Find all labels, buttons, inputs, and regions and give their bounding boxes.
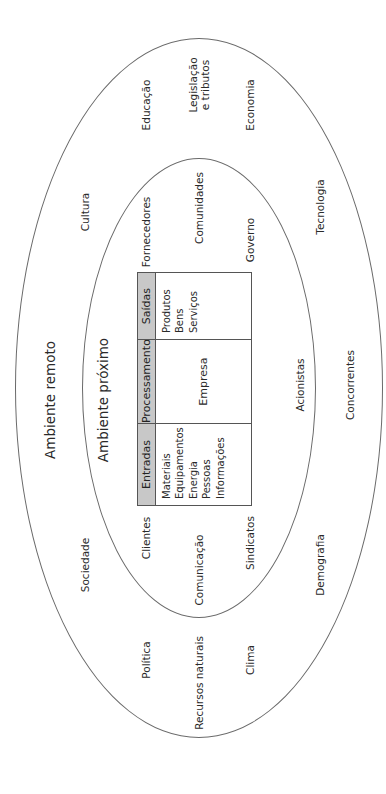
- factor-economia: Economia: [244, 79, 256, 131]
- factor-legislacao-line1: Legislação: [187, 57, 199, 112]
- factor-acionistas: Acionistas: [294, 358, 306, 411]
- column-header-entradas: Entradas: [138, 424, 156, 505]
- factor-recursos-naturais: Recursos naturais: [193, 636, 205, 730]
- factor-legislacao-tributos: Legislação e tributos: [187, 57, 211, 112]
- column-saidas: Saídas Produtos Bens Serviços: [138, 273, 251, 340]
- factor-educacao: Educação: [140, 80, 152, 131]
- list-item: Bens: [173, 273, 186, 333]
- column-header-processamento: Processamento: [138, 340, 156, 423]
- remote-environment-title: Ambiente remoto: [44, 341, 56, 459]
- list-item: Pessoas: [200, 424, 213, 499]
- factor-fornecedores: Fornecedores: [140, 197, 152, 268]
- factor-cultura: Cultura: [79, 193, 91, 231]
- list-item: Empresa: [197, 358, 210, 406]
- list-item: Materiais: [160, 424, 173, 499]
- list-item: Informações: [214, 424, 227, 499]
- list-item: Serviços: [187, 273, 200, 333]
- factor-concorrentes: Concorrentes: [344, 350, 356, 420]
- factor-demografia: Demografia: [314, 534, 326, 596]
- factor-comunicacao: Comunicação: [193, 534, 205, 605]
- factor-legislacao-line2: e tributos: [199, 57, 211, 112]
- column-processamento: Processamento Empresa: [138, 340, 251, 424]
- factor-sociedade: Sociedade: [79, 538, 91, 592]
- factor-politica: Política: [140, 641, 152, 678]
- column-body-entradas: Materiais Equipamentos Energia Pessoas I…: [156, 424, 227, 505]
- factor-clima: Clima: [244, 645, 256, 675]
- company-process-table: Entradas Materiais Equipamentos Energia …: [137, 272, 252, 506]
- list-item: Produtos: [160, 273, 173, 333]
- list-item: Energia: [187, 424, 200, 499]
- factor-governo: Governo: [244, 218, 256, 262]
- factor-comunidades: Comunidades: [193, 172, 205, 244]
- environment-diagram: Ambiente remoto Ambiente próximo Educaçã…: [0, 0, 386, 794]
- factor-tecnologia: Tecnologia: [314, 179, 326, 234]
- factor-clientes: Clientes: [140, 517, 152, 559]
- column-entradas: Entradas Materiais Equipamentos Energia …: [138, 424, 251, 505]
- column-header-saidas: Saídas: [138, 273, 156, 339]
- list-item: Equipamentos: [173, 424, 186, 499]
- column-body-processamento: Empresa: [156, 340, 251, 423]
- near-environment-title: Ambiente próximo: [97, 338, 109, 462]
- factor-sindicatos: Sindicatos: [244, 516, 256, 570]
- column-body-saidas: Produtos Bens Serviços: [156, 273, 200, 339]
